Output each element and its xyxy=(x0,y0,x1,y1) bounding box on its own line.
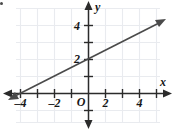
x-tick-label-2: 2 xyxy=(102,96,109,110)
x-axis-arrow-left-icon xyxy=(3,90,12,98)
axis-name-labels: y x xyxy=(93,0,166,89)
x-tick-label-4: 4 xyxy=(136,96,143,110)
y-tick-label-4: 4 xyxy=(73,19,80,33)
graph-figure: –4 –2 2 4 2 4 O y x xyxy=(0,0,175,130)
coordinate-plane-svg: –4 –2 2 4 2 4 O y x xyxy=(0,0,175,130)
x-tick-label-minus2: –2 xyxy=(48,96,61,110)
y-axis-label: y xyxy=(93,0,101,14)
x-axis-label: x xyxy=(159,75,166,89)
y-tick-label-2: 2 xyxy=(73,52,80,66)
origin-label: O xyxy=(77,95,86,109)
x-axis xyxy=(3,89,172,98)
x-axis-arrow-right-icon xyxy=(163,90,172,98)
x-tick-label-minus4: –4 xyxy=(14,96,27,110)
y-axis-arrow-down-icon xyxy=(85,120,93,129)
y-axis xyxy=(84,1,93,129)
y-axis-arrow-up-icon xyxy=(85,1,93,10)
